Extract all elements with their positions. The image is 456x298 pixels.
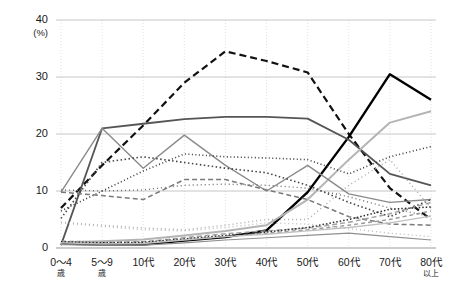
- plot-area: [56, 20, 436, 248]
- y-tick-label: 30: [36, 71, 48, 82]
- x-tick-label-sub: 歳: [76, 269, 128, 279]
- series-line-series-08: [61, 184, 431, 216]
- x-tick-label-main: 30代: [215, 256, 237, 268]
- x-tick-label-main: 60代: [338, 256, 360, 268]
- y-tick-label: 40: [36, 14, 48, 25]
- x-tick-label-main: 70代: [379, 256, 401, 268]
- x-tick-label-main: 20代: [173, 256, 195, 268]
- series-line-series-10: [61, 180, 431, 226]
- line-chart: 010203040(%) 0～4歳5～9歳10代20代30代40代50代60代7…: [0, 0, 456, 298]
- series-line-series-02: [61, 74, 431, 244]
- x-tick-label-sub: 以上: [405, 269, 456, 279]
- y-tick-label: 10: [36, 185, 48, 196]
- x-axis: 0～4歳5～9歳10代20代30代40代50代60代70代80代以上: [56, 250, 436, 298]
- x-tick-label-main: 50代: [297, 256, 319, 268]
- plot-svg: [56, 20, 436, 248]
- y-tick-label: 20: [36, 128, 48, 139]
- y-tick-label: 0: [42, 242, 48, 253]
- series-line-series-04: [61, 111, 431, 242]
- x-tick-label-main: 5～9: [91, 256, 113, 268]
- series-line-series-07: [61, 157, 431, 219]
- x-tick-label-main: 10代: [132, 256, 154, 268]
- y-axis: 010203040(%): [0, 0, 56, 298]
- y-axis-unit: (%): [33, 28, 48, 38]
- x-tick-label-main: 80代: [420, 256, 442, 268]
- series-line-series-11: [61, 202, 431, 242]
- x-tick-label: 80代以上: [405, 256, 456, 279]
- x-tick-label-main: 0～4: [50, 256, 72, 268]
- x-tick-label-main: 40代: [256, 256, 278, 268]
